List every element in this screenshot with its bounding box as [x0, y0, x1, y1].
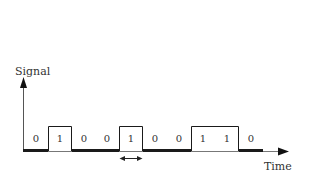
x-axis-label: Time — [264, 160, 292, 173]
pulse-3 — [192, 127, 239, 152]
bit-label: 1 — [57, 133, 63, 144]
bit-label: 1 — [200, 133, 206, 144]
signal-pulses — [49, 127, 239, 152]
x-axis-arrow-icon — [278, 148, 289, 156]
bit-label: 1 — [128, 133, 134, 144]
bit-labels: 0 1 0 0 1 0 0 1 1 0 — [33, 133, 254, 144]
digital-signal-diagram: Signal Time 0 1 0 0 1 0 0 1 1 0 — [0, 0, 312, 179]
bit-label: 0 — [81, 133, 87, 144]
bit-label: 0 — [104, 133, 110, 144]
bit-label: 0 — [176, 133, 182, 144]
bit-label: 0 — [152, 133, 158, 144]
double-arrow-icon — [120, 156, 143, 161]
y-axis-label: Signal — [15, 65, 51, 78]
y-axis-arrow-icon — [20, 77, 27, 88]
bit-label: 0 — [248, 133, 254, 144]
bit-label: 0 — [33, 133, 39, 144]
bit-label: 1 — [224, 133, 230, 144]
